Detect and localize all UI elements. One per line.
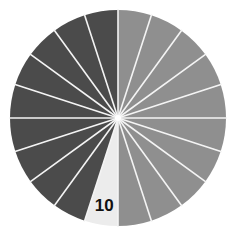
segment-wheel: 10: [0, 0, 236, 245]
highlight-segment-label: 10: [95, 196, 114, 215]
wheel-hub: [115, 115, 121, 121]
